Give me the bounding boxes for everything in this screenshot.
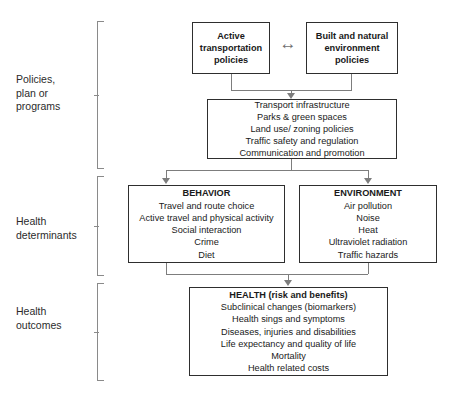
conceptual-framework-diagram: Policies, plan or programs Health determ…	[0, 0, 461, 393]
arrowhead-icon	[364, 178, 372, 184]
section-label-policies: Policies, plan or programs	[16, 73, 90, 114]
box-active-transportation-policies: Active transportation policies	[192, 22, 270, 74]
box-line: Mortality	[271, 350, 306, 362]
box-line: Air pollution	[344, 200, 392, 212]
box-line: Traffic safety and regulation	[246, 135, 359, 147]
box-line: Noise	[356, 212, 380, 224]
box-line: Parks & green spaces	[257, 111, 347, 123]
bracket-policies	[97, 21, 104, 169]
box-behavior: BEHAVIOR Travel and route choice Active …	[128, 185, 285, 263]
box-line: Active travel and physical activity	[139, 212, 273, 224]
connector-line	[166, 263, 167, 274]
box-line: Life expectancy and quality of life	[221, 338, 356, 350]
box-line: environment	[324, 42, 379, 54]
box-line: Social interaction	[172, 224, 242, 236]
bidirectional-arrow-icon: ↔	[268, 34, 308, 54]
section-label-health-determinants: Health determinants	[16, 215, 96, 242]
box-environment: ENVIRONMENT Air pollution Noise Heat Ult…	[299, 185, 437, 263]
box-line: transportation	[200, 42, 262, 54]
connector-line	[368, 263, 369, 274]
bracket-tick	[94, 226, 99, 227]
box-line: Health sings and symptoms	[232, 313, 345, 325]
box-line: Land use/ zoning policies	[250, 123, 353, 135]
box-line: Active	[217, 30, 245, 42]
connector-line	[166, 274, 368, 275]
box-line: Heat	[358, 224, 377, 236]
arrowhead-icon	[284, 280, 292, 286]
arrowhead-icon	[162, 178, 170, 184]
bracket-health-determinants	[97, 176, 104, 276]
box-health-outcomes: HEALTH (risk and benefits) Subclinical c…	[189, 287, 388, 376]
box-line: Crime	[194, 236, 219, 248]
box-title: HEALTH (risk and benefits)	[229, 289, 347, 301]
box-line: Ultraviolet radiation	[329, 236, 408, 248]
bracket-tick	[94, 95, 99, 96]
box-line: Diet	[198, 249, 214, 261]
connector-line	[351, 74, 352, 90]
box-transport-interventions: Transport infrastructure Parks & green s…	[207, 99, 397, 159]
box-line: Transport infrastructure	[254, 99, 349, 111]
section-label-health-outcomes: Health outcomes	[16, 305, 94, 332]
box-title: BEHAVIOR	[183, 187, 231, 199]
box-line: Health related costs	[248, 362, 329, 374]
box-line: Subclinical changes (biomarkers)	[221, 301, 356, 313]
box-line: Communication and promotion	[239, 147, 364, 159]
box-line: Diseases, injuries and disabilities	[221, 326, 356, 338]
bracket-health-outcomes	[97, 283, 104, 381]
connector-line	[231, 74, 232, 90]
box-built-and-natural-environment-policies: Built and natural environment policies	[306, 22, 398, 74]
connector-line	[291, 159, 292, 170]
connector-line	[166, 170, 368, 171]
box-title: ENVIRONMENT	[334, 187, 402, 199]
bracket-tick	[94, 332, 99, 333]
box-line: policies	[335, 54, 369, 66]
box-line: policies	[214, 54, 248, 66]
box-line: Built and natural	[316, 30, 388, 42]
box-line: Travel and route choice	[159, 200, 255, 212]
box-line: Traffic hazards	[338, 249, 398, 261]
